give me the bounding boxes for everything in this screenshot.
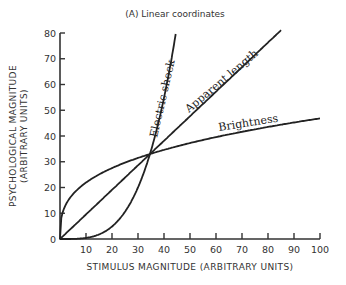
curve-labels: Electric shockApparent lengthBrightness [147, 47, 279, 139]
x-tick-label: 30 [132, 244, 144, 255]
y-tick-label: 10 [44, 208, 56, 219]
y-axis-label-line1: PSYCHOLOGICAL MAGNITUDE [8, 65, 18, 207]
curves [60, 30, 320, 239]
x-tick-label: 80 [262, 244, 274, 255]
y-tick-label: 60 [44, 79, 56, 90]
y-tick-label: 0 [50, 234, 56, 245]
x-tick-label: 10 [80, 244, 92, 255]
axes [60, 33, 320, 239]
y-tick-label: 30 [44, 156, 56, 167]
y-tick-label: 50 [44, 105, 56, 116]
chart: (A) Linear coordinates PSYCHOLOGICAL MAG… [0, 0, 346, 285]
x-tick-label: 40 [158, 244, 170, 255]
chart-title: (A) Linear coordinates [125, 9, 225, 19]
axis-lines [60, 33, 320, 239]
y-tick-label: 40 [44, 131, 56, 142]
x-axis-label: STIMULUS MAGNITUDE (ARBITRARY UNITS) [86, 262, 293, 272]
y-axis-label: PSYCHOLOGICAL MAGNITUDE (ARBITRARY UNITS… [8, 65, 29, 207]
y-tick-label: 70 [44, 53, 56, 64]
x-tick-label: 50 [184, 244, 196, 255]
series-brightness [60, 118, 320, 239]
tick-labels: 01020304050607080102030405060708090100 [44, 28, 329, 256]
y-tick-label: 20 [44, 182, 56, 193]
curve-label: Electric shock [147, 58, 178, 138]
x-tick-label: 90 [288, 244, 300, 255]
curve-label: Apparent length [182, 47, 261, 116]
x-tick-label: 100 [311, 244, 329, 255]
x-tick-label: 70 [236, 244, 248, 255]
x-tick-label: 60 [210, 244, 222, 255]
y-tick-label: 80 [44, 28, 56, 39]
y-axis-label-line2: (ARBITRARY UNITS) [19, 89, 29, 183]
x-tick-label: 20 [106, 244, 118, 255]
